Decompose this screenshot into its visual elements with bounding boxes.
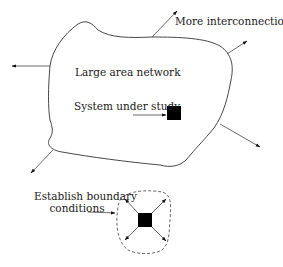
establish-boundary-line1: Establish boundary (34, 190, 120, 202)
more-interconnections-label: More interconnections (175, 15, 283, 27)
arrow-more-interconnections (152, 11, 177, 37)
boundary-arrow-down-left (125, 227, 138, 240)
boundary-arrow-up-right (152, 199, 166, 213)
arrow-down-left (31, 150, 53, 173)
arrow-right-upper (227, 41, 247, 54)
system-under-study-label: System under study (74, 100, 180, 112)
boundary-box (138, 213, 152, 227)
establish-boundary-label: Establish boundary conditions (34, 190, 120, 214)
diagram-canvas: More interconnections Large area network… (0, 0, 283, 267)
network-region-outline (49, 22, 233, 167)
establish-boundary-line2: conditions (34, 202, 120, 214)
arrow-right-lower (220, 124, 260, 147)
diagram-graphics (0, 0, 283, 267)
boundary-arrow-down-right (152, 227, 166, 241)
large-area-network-label: Large area network (75, 66, 181, 78)
